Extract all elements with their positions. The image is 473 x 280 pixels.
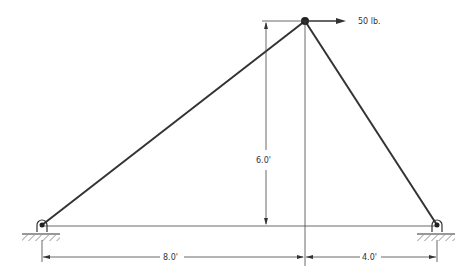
left-span-arrow-right	[297, 255, 304, 259]
left-span-label: 8.0'	[163, 253, 178, 262]
left-span-arrow-left	[43, 255, 50, 259]
right-span-arrow-right	[429, 255, 436, 259]
right-span-arrow-left	[306, 255, 313, 259]
height-label: 6.0'	[256, 156, 271, 165]
member-right	[305, 21, 437, 225]
member-left	[42, 21, 305, 225]
height-arrow-bottom	[264, 218, 268, 225]
load-label: 50 lb.	[358, 17, 381, 26]
height-arrow-top	[264, 22, 268, 29]
truss-diagram: 50 lb. 6.0' 8.0' 4.0'	[0, 0, 473, 280]
right-span-label: 4.0'	[362, 253, 377, 262]
load-arrowhead	[336, 18, 346, 24]
